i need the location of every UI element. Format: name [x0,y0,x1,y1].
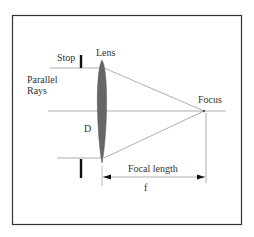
diagram-frame [13,16,242,225]
lens-shape [97,60,106,163]
lens-label: Lens [96,47,115,58]
f-label: f [144,182,147,193]
parallel-rays-label-line1: Parallel [27,74,58,85]
lens-diagram [0,0,254,237]
focal-arrow-right [197,175,205,180]
stop-label: Stop [57,52,75,63]
parallel-rays-label-line2: Rays [27,85,47,96]
focal-length-label: Focal length [128,163,178,174]
focus-label: Focus [198,94,222,105]
diameter-label: D [84,123,91,134]
top-converging-ray [104,68,204,111]
focal-arrow-left [103,175,111,180]
bottom-converging-ray [104,111,204,158]
focus-point [203,110,205,112]
